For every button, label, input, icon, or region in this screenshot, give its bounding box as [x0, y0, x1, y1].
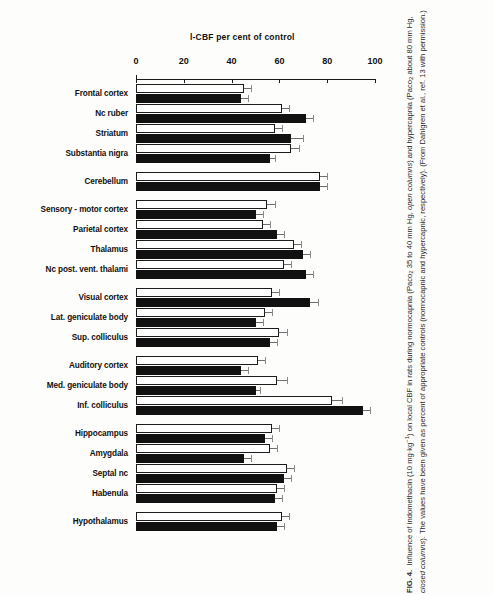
bar-group: Sensory - motor cortex [0, 200, 400, 219]
chart-axis-title: l-CBF per cent of control [190, 32, 295, 42]
error-bar-cap [313, 115, 314, 122]
error-bar-cap [279, 289, 280, 296]
error-bar-cap [303, 135, 304, 142]
bar-closed-column [136, 522, 277, 531]
error-bar-cap [263, 211, 264, 218]
error-bar [258, 360, 265, 361]
bar-closed-column [136, 182, 320, 191]
x-tick-label-20: 20 [179, 56, 189, 66]
bar-group: Nc ruber [0, 104, 400, 123]
bar-group: Habenula [0, 484, 400, 503]
bar-closed-column [136, 134, 291, 143]
error-bar [241, 98, 248, 99]
error-bar-cap [251, 85, 252, 92]
bar-row-open [0, 376, 400, 385]
x-tick-mark-60 [279, 79, 280, 83]
error-bar-cap [301, 241, 302, 248]
error-bar [291, 138, 303, 139]
error-bar [270, 342, 277, 343]
bar-row-open [0, 356, 400, 365]
bar-group: Amygdala [0, 444, 400, 463]
error-bar-cap [265, 357, 266, 364]
bar-row-open [0, 260, 400, 269]
bar-row-closed [0, 454, 400, 463]
bar-row-closed [0, 134, 400, 143]
error-bar [270, 448, 277, 449]
bar-open-column [136, 444, 270, 453]
figure-caption-text: FIG. 4. Influence of indomethacin (10 mg… [400, 0, 493, 595]
error-bar-cap [299, 145, 300, 152]
bar-row-closed [0, 270, 400, 279]
bar-group: Hippocampus [0, 424, 400, 443]
bar-row-open [0, 144, 400, 153]
bar-row-open [0, 308, 400, 317]
bar-closed-column [136, 366, 241, 375]
bar-group: Hypothalamus [0, 512, 400, 531]
figure-caption: FIG. 4. Influence of indomethacin (10 mg… [400, 0, 493, 595]
error-bar-cap [291, 261, 292, 268]
bar-row-open [0, 484, 400, 493]
error-bar-cap [284, 485, 285, 492]
error-bar-cap [327, 183, 328, 190]
error-bar-cap [270, 221, 271, 228]
bar-row-closed [0, 230, 400, 239]
error-bar-cap [370, 407, 371, 414]
bar-row-closed [0, 94, 400, 103]
bar-group: Inf. colliculus [0, 396, 400, 415]
bar-closed-column [136, 210, 256, 219]
bar-closed-column [136, 406, 363, 415]
bar-group: Auditory cortex [0, 356, 400, 375]
error-bar [244, 458, 251, 459]
error-bar-cap [251, 455, 252, 462]
error-bar-cap [313, 271, 314, 278]
error-bar-cap [272, 435, 273, 442]
error-bar-cap [294, 465, 295, 472]
bar-group: Visual cortex [0, 288, 400, 307]
bar-row-open [0, 84, 400, 93]
bar-group: Striatum [0, 124, 400, 143]
bar-open-column [136, 396, 332, 405]
x-tick-label-0: 0 [133, 56, 138, 66]
error-bar [282, 108, 289, 109]
bar-open-column [136, 260, 284, 269]
bar-open-column [136, 424, 272, 433]
bar-group: Substantia nigra [0, 144, 400, 163]
bar-row-closed [0, 366, 400, 375]
bar-closed-column [136, 250, 303, 259]
bar-closed-column [136, 474, 284, 483]
bar-row-closed [0, 210, 400, 219]
bar-open-column [136, 200, 267, 209]
bar-row-open [0, 220, 400, 229]
bar-row-open [0, 464, 400, 473]
error-bar-cap [275, 201, 276, 208]
bar-open-column [136, 172, 320, 181]
error-bar-cap [248, 367, 249, 374]
bar-row-open [0, 396, 400, 405]
bar-closed-column [136, 338, 270, 347]
error-bar-cap [279, 425, 280, 432]
error-bar-cap [284, 523, 285, 530]
x-tick-mark-0 [136, 79, 137, 83]
error-bar [279, 332, 286, 333]
bar-group: Lat. geniculate body [0, 308, 400, 327]
error-bar [241, 370, 248, 371]
bar-closed-column [136, 298, 310, 307]
bar-row-closed [0, 318, 400, 327]
error-bar [320, 176, 327, 177]
bar-closed-column [136, 454, 244, 463]
error-bar [277, 526, 284, 527]
error-bar [263, 224, 270, 225]
error-bar [303, 254, 310, 255]
bar-open-column [136, 144, 291, 153]
bar-closed-column [136, 154, 270, 163]
error-bar-cap [263, 319, 264, 326]
error-bar [275, 128, 282, 129]
bar-open-column [136, 240, 294, 249]
bar-row-closed [0, 434, 400, 443]
error-bar [277, 488, 284, 489]
bar-open-column [136, 356, 258, 365]
error-bar [267, 204, 274, 205]
bar-group: Nc post. vent. thalami [0, 260, 400, 279]
error-bar [310, 302, 317, 303]
error-bar-cap [310, 251, 311, 258]
